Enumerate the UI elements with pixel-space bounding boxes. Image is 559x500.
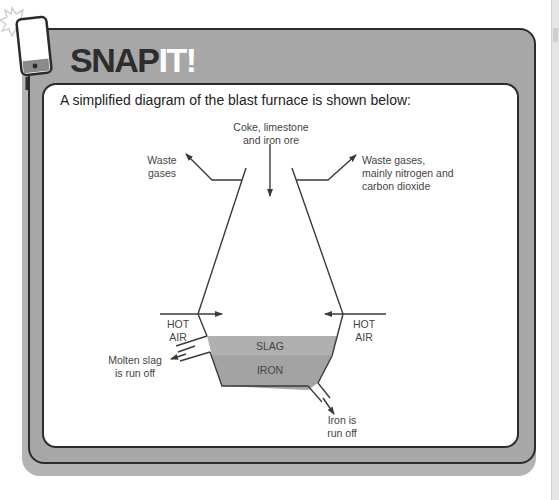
label-iron-out: Iron is run off (320, 414, 364, 440)
label-slag: SLAG (240, 340, 300, 353)
label-slag-out-line2: is run off (100, 367, 170, 380)
waste-outlet-right (296, 155, 356, 180)
iron-out-arrow (323, 398, 334, 414)
label-iron-out-line1: Iron is (320, 414, 364, 427)
label-hot-air-right: HOT AIR (346, 318, 382, 344)
label-waste-right: Waste gases, mainly nitrogen and carbon … (362, 154, 454, 193)
label-hot-air-left: HOT AIR (160, 318, 196, 344)
label-inputs: Coke, limestone and iron ore (226, 121, 316, 147)
label-waste-left-line2: gases (142, 167, 182, 180)
waste-outlet-left (186, 154, 242, 180)
label-waste-right-line3: carbon dioxide (362, 180, 454, 193)
label-waste-right-line2: mainly nitrogen and (362, 167, 454, 180)
label-iron: IRON (240, 364, 300, 377)
label-waste-left-line1: Waste (142, 154, 182, 167)
label-hot-air-left-line1: HOT (160, 318, 196, 331)
label-waste-right-line1: Waste gases, (362, 154, 454, 167)
label-slag-out: Molten slag is run off (100, 354, 170, 380)
slag-out-arrow (171, 354, 186, 359)
label-slag-out-line1: Molten slag (100, 354, 170, 367)
label-hot-air-right-line2: AIR (346, 331, 382, 344)
label-iron-out-line2: run off (320, 427, 364, 440)
label-inputs-line2: and iron ore (226, 134, 316, 147)
label-hot-air-right-line1: HOT (346, 318, 382, 331)
furnace-left-wall (198, 168, 246, 336)
label-waste-left: Waste gases (142, 154, 182, 180)
label-inputs-line1: Coke, limestone (226, 121, 316, 134)
label-hot-air-left-line2: AIR (160, 331, 196, 344)
